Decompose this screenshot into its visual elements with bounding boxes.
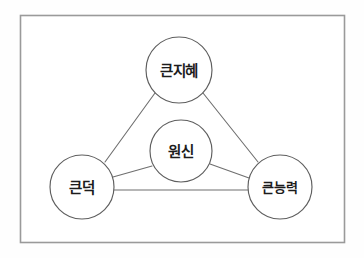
node-center-label: 원신 xyxy=(168,144,194,160)
node-left[interactable]: 큰덕 xyxy=(50,155,114,219)
node-top[interactable]: 큰지혜 xyxy=(146,37,212,103)
node-top-label: 큰지혜 xyxy=(160,63,198,79)
node-right[interactable]: 큰능력 xyxy=(248,155,312,219)
node-right-label: 큰능력 xyxy=(262,180,297,195)
diagram-canvas: 큰지혜 원신 큰덕 큰능력 xyxy=(0,0,364,258)
node-left-label: 큰덕 xyxy=(69,179,94,196)
concept-diagram: 큰지혜 원신 큰덕 큰능력 xyxy=(0,0,364,258)
node-center[interactable]: 원신 xyxy=(150,120,212,182)
